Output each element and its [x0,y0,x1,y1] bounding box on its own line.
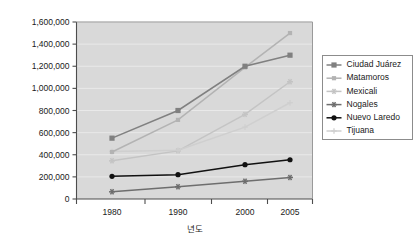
legend-item-label: Mexicali [347,86,378,96]
y-tick-label: 400,000 [39,150,70,160]
data-point-marker [110,150,114,154]
line-chart: 0200,000400,000600,000800,0001,000,0001,… [0,0,413,246]
data-point-marker [175,108,180,113]
legend-item-label: Ciudad Juárez [347,59,402,69]
data-point-marker [288,31,292,35]
chart-canvas: 0200,000400,000600,000800,0001,000,0001,… [0,0,413,246]
data-point-marker [242,64,247,69]
x-axis-title-text: 년도 [187,224,203,234]
data-point-marker [242,162,247,167]
data-point-marker [287,157,292,162]
x-axis-title: 년도 [187,224,203,234]
data-point-marker [331,115,336,120]
data-point-marker [175,172,180,177]
data-point-marker [176,118,180,122]
y-tick-label: 200,000 [39,172,70,182]
x-tick-label: 1980 [103,207,122,217]
data-point-marker [331,62,336,67]
y-tick-label: 1,200,000 [32,61,70,71]
data-point-marker [287,53,292,58]
legend[interactable]: Ciudad JuárezMatamorosMexicaliNogalesNue… [323,56,413,140]
x-tick-label: 2000 [236,207,255,217]
legend-item-label: Matamoros [347,72,390,82]
legend-item-label: Tijuana [347,125,375,135]
legend-item-label: Nuevo Laredo [347,112,401,122]
y-tick-label: 600,000 [39,128,70,138]
data-point-marker [332,76,336,80]
x-tick-label: 2005 [281,207,300,217]
y-tick-label: 0 [65,194,70,204]
data-point-marker [109,136,114,141]
y-tick-label: 1,600,000 [32,17,70,27]
x-tick-label: 1990 [169,207,188,217]
y-tick-label: 1,400,000 [32,39,70,49]
y-tick-label: 800,000 [39,106,70,116]
data-point-marker [109,174,114,179]
y-tick-label: 1,000,000 [32,83,70,93]
legend-item-label: Nogales [347,99,378,109]
